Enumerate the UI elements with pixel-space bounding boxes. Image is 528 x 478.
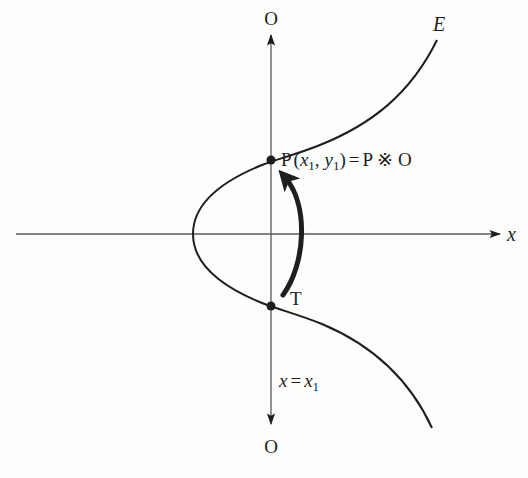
P-name: P [281, 149, 292, 170]
curve-E-label: E [432, 13, 445, 35]
top-O-label: O [264, 8, 278, 29]
rhs-sub: 1 [313, 379, 320, 394]
vertical-line-label: x=x1 [278, 370, 319, 394]
y-coord: y [323, 149, 334, 170]
P-star-O: P ※ O [363, 149, 412, 170]
point-T [267, 302, 276, 311]
point-P-label: P(x1,y1)=P ※ O [281, 149, 412, 173]
bottom-O-label: O [264, 436, 278, 457]
comma: , [315, 149, 320, 170]
equals: = [349, 149, 360, 170]
close-paren: ) [340, 149, 346, 171]
diagram-canvas: O O E x T P(x1,y1)=P ※ O x=x1 [0, 0, 528, 478]
curved-arrow [283, 176, 302, 295]
point-T-label: T [290, 288, 302, 309]
x-axis-label: x [506, 223, 516, 245]
point-P [267, 156, 276, 165]
eq-sign: = [290, 370, 301, 391]
lhs-x: x [278, 370, 288, 391]
